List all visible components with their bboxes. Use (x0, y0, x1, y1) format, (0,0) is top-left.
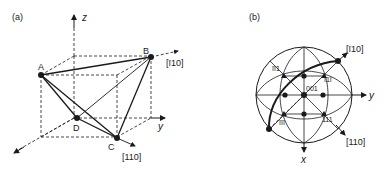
pole-0bar10 (282, 92, 287, 97)
figure: (a) z y (0, 0, 390, 173)
point-c (114, 135, 120, 141)
point-d-label: D (73, 123, 80, 133)
pole-label-upper-right: ī1ī (324, 76, 332, 83)
panel-b: (b) y x (249, 12, 375, 165)
b-direction-arrow (151, 51, 178, 57)
pole-label-upper-left: īī1 (272, 65, 280, 72)
x-axis-arrow (14, 147, 24, 153)
pole-bar110 (335, 58, 341, 64)
y-axis-label: y (157, 121, 164, 132)
point-d (74, 115, 80, 121)
pole-bar1bar11-triangle (281, 73, 287, 78)
x-axis-label-b: x (300, 154, 307, 165)
b-direction-label: [ī10] (166, 58, 184, 68)
point-a-label: A (38, 62, 44, 72)
pole-001 (301, 92, 307, 98)
pole-100 (301, 111, 306, 116)
pole-bar100 (301, 73, 306, 78)
pole-label-lower-left: īīī (279, 119, 285, 126)
top-right-direction-label: [ī10] (346, 44, 364, 54)
panel-a: (a) z y (12, 12, 184, 162)
point-a (38, 72, 44, 78)
c-direction-label: [110] (122, 152, 141, 162)
panel-b-label: (b) (249, 12, 260, 22)
pole-010 (320, 92, 325, 97)
panel-a-label: (a) (12, 12, 23, 22)
point-b-label: B (143, 46, 149, 56)
bottom-right-direction-label: [110] (346, 137, 365, 147)
pole-label-001: 001 (306, 85, 318, 92)
pole-bar1bar10 (266, 126, 272, 132)
cube-dashed-edges (18, 28, 151, 150)
tetrahedron-edges (41, 57, 151, 138)
z-axis-label: z (81, 12, 87, 23)
y-axis-label-b: y (368, 90, 375, 101)
pole-label-lower-right: 111 (322, 116, 333, 123)
point-c-label: C (108, 142, 115, 152)
